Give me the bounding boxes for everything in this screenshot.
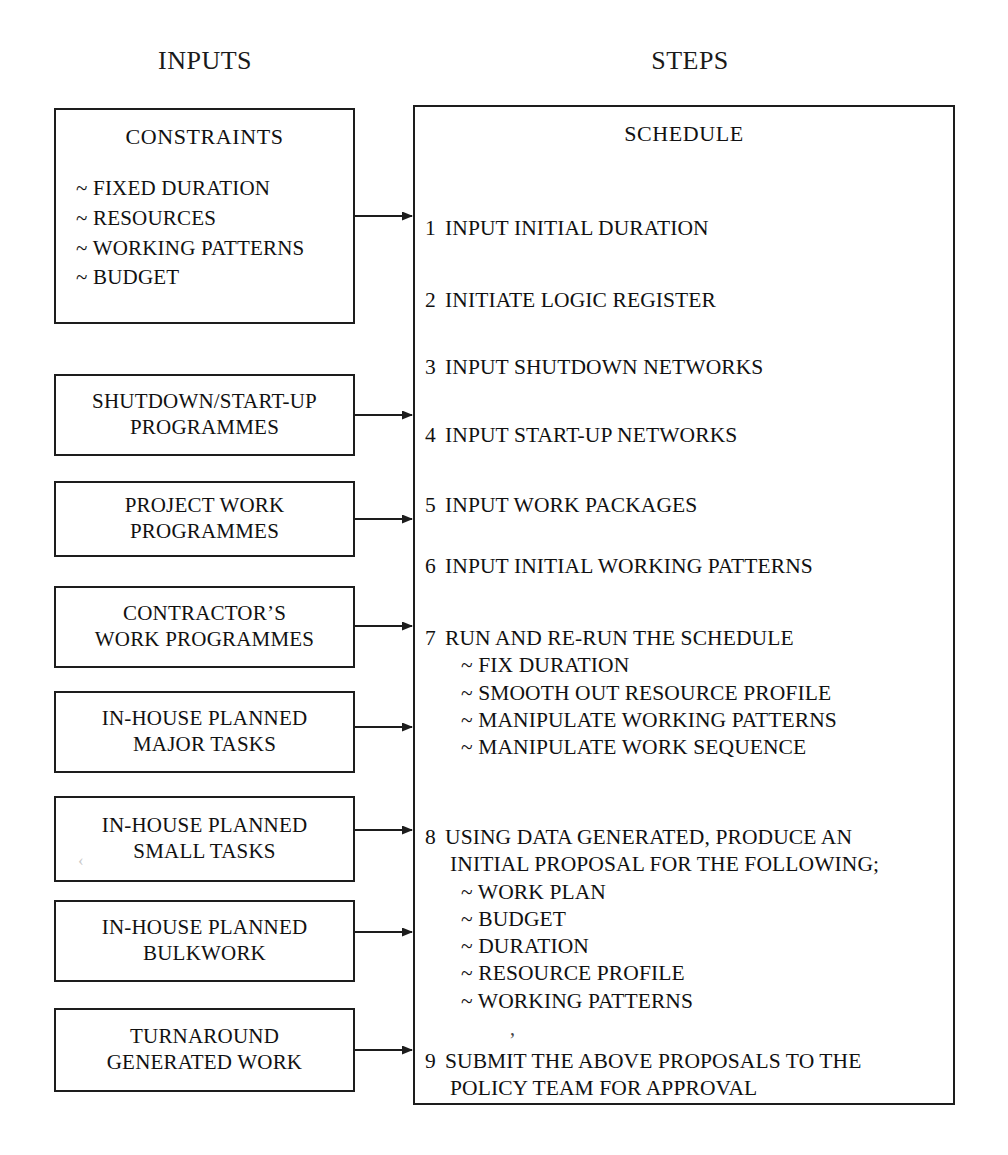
step-label: USING DATA GENERATED, PRODUCE AN — [445, 824, 947, 851]
step-number: 8 — [425, 824, 445, 851]
schedule-step-5[interactable]: 5 INPUT WORK PACKAGES — [425, 492, 947, 519]
schedule-step-4[interactable]: 4 INPUT START-UP NETWORKS — [425, 422, 947, 449]
schedule-step-8[interactable]: 8 USING DATA GENERATED, PRODUCE AN INITI… — [425, 824, 947, 1015]
schedule-step-6[interactable]: 6 INPUT INITIAL WORKING PATTERNS — [425, 553, 947, 580]
column-header-inputs: INPUTS — [105, 46, 305, 76]
input-box-project-work-programmes[interactable]: PROJECT WORK PROGRAMMES — [54, 481, 355, 557]
schedule-step-7[interactable]: 7 RUN AND RE-RUN THE SCHEDULE ~ FIX DURA… — [425, 625, 947, 761]
input-box-line: IN-HOUSE PLANNED — [102, 813, 308, 839]
step-number: 6 — [425, 553, 445, 580]
steps-box-schedule[interactable]: SCHEDULE 1 INPUT INITIAL DURATION 2 INIT… — [413, 105, 955, 1105]
input-box-line: SHUTDOWN/START-UP — [92, 389, 317, 415]
constraint-item: ~ WORKING PATTERNS — [76, 234, 353, 264]
step-number: 9 — [425, 1048, 445, 1075]
constraint-item: ~ RESOURCES — [76, 204, 353, 234]
step-sub-item: ~ WORKING PATTERNS — [461, 988, 947, 1015]
input-box-line: PROJECT WORK — [125, 493, 285, 519]
constraints-title: CONSTRAINTS — [56, 124, 353, 150]
schedule-step-2[interactable]: 2 INITIATE LOGIC REGISTER — [425, 287, 947, 314]
input-box-line: BULKWORK — [143, 941, 266, 967]
step-9-continuation: POLICY TEAM FOR APPROVAL — [450, 1075, 947, 1102]
step-8-continuation: INITIAL PROPOSAL FOR THE FOLLOWING; — [450, 851, 947, 878]
step-number: 4 — [425, 422, 445, 449]
step-label: INPUT START-UP NETWORKS — [445, 422, 947, 449]
step-sub-item: ~ DURATION — [461, 933, 947, 960]
step-label: INPUT INITIAL DURATION — [445, 215, 947, 242]
input-box-shutdown-startup-programmes[interactable]: SHUTDOWN/START-UP PROGRAMMES — [54, 374, 355, 456]
step-label: RUN AND RE-RUN THE SCHEDULE — [445, 625, 947, 652]
schedule-step-1[interactable]: 1 INPUT INITIAL DURATION — [425, 215, 947, 242]
step-number: 7 — [425, 625, 445, 652]
input-box-line: TURNAROUND — [130, 1024, 279, 1050]
step-label: INITIATE LOGIC REGISTER — [445, 287, 947, 314]
step-number: 1 — [425, 215, 445, 242]
input-box-in-house-planned-small-tasks[interactable]: IN-HOUSE PLANNED SMALL TASKS ‹ — [54, 796, 355, 882]
constraints-list: ~ FIXED DURATION ~ RESOURCES ~ WORKING P… — [76, 174, 353, 293]
step-number: 3 — [425, 354, 445, 381]
step-sub-item: ~ MANIPULATE WORKING PATTERNS — [461, 707, 947, 734]
input-box-line: PROGRAMMES — [130, 415, 279, 441]
input-box-line: IN-HOUSE PLANNED — [102, 706, 308, 732]
constraint-item: ~ FIXED DURATION — [76, 174, 353, 204]
step-sub-item: ~ FIX DURATION — [461, 652, 947, 679]
column-header-steps: STEPS — [590, 46, 790, 76]
step-label: INPUT WORK PACKAGES — [445, 492, 947, 519]
step-sub-item: ~ WORK PLAN — [461, 879, 947, 906]
input-box-in-house-planned-major-tasks[interactable]: IN-HOUSE PLANNED MAJOR TASKS — [54, 691, 355, 773]
schedule-step-3[interactable]: 3 INPUT SHUTDOWN NETWORKS — [425, 354, 947, 381]
input-box-constraints[interactable]: CONSTRAINTS ~ FIXED DURATION ~ RESOURCES… — [54, 108, 355, 324]
step-label: INPUT SHUTDOWN NETWORKS — [445, 354, 947, 381]
step-8-sublist: ~ WORK PLAN ~ BUDGET ~ DURATION ~ RESOUR… — [461, 879, 947, 1015]
step-label: INPUT INITIAL WORKING PATTERNS — [445, 553, 947, 580]
step-number: 5 — [425, 492, 445, 519]
input-box-contractors-work-programmes[interactable]: CONTRACTOR’S WORK PROGRAMMES — [54, 586, 355, 668]
input-box-line: IN-HOUSE PLANNED — [102, 915, 308, 941]
flow-diagram: INPUTS STEPS CONSTRAINTS ~ FIXED DURATIO… — [0, 0, 1008, 1155]
step-sub-item: ~ SMOOTH OUT RESOURCE PROFILE — [461, 680, 947, 707]
input-box-turnaround-generated-work[interactable]: TURNAROUND GENERATED WORK — [54, 1008, 355, 1092]
input-box-line: WORK PROGRAMMES — [95, 627, 314, 653]
scan-artifact-chevron-icon: ‹ — [78, 851, 84, 872]
schedule-step-9[interactable]: 9 SUBMIT THE ABOVE PROPOSALS TO THE POLI… — [425, 1048, 947, 1103]
input-box-line: MAJOR TASKS — [133, 732, 276, 758]
step-label: SUBMIT THE ABOVE PROPOSALS TO THE — [445, 1048, 947, 1075]
step-sub-item: ~ RESOURCE PROFILE — [461, 960, 947, 987]
step-sub-item: ~ BUDGET — [461, 906, 947, 933]
input-box-line: PROGRAMMES — [130, 519, 279, 545]
constraint-item: ~ BUDGET — [76, 263, 353, 293]
input-box-line: SMALL TASKS — [133, 839, 275, 865]
step-sub-item: ~ MANIPULATE WORK SEQUENCE — [461, 734, 947, 761]
schedule-title: SCHEDULE — [415, 121, 953, 147]
step-7-sublist: ~ FIX DURATION ~ SMOOTH OUT RESOURCE PRO… — [461, 652, 947, 761]
input-box-in-house-planned-bulkwork[interactable]: IN-HOUSE PLANNED BULKWORK — [54, 900, 355, 982]
input-box-line: GENERATED WORK — [107, 1050, 302, 1076]
input-box-line: CONTRACTOR’S — [123, 601, 286, 627]
step-number: 2 — [425, 287, 445, 314]
